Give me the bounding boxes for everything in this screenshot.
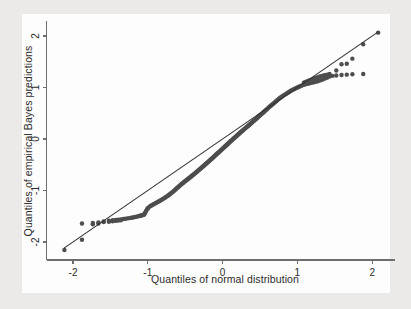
scatter-point [119,218,123,222]
scatter-point [350,72,354,76]
reference-line [64,32,378,248]
scatter-point [345,72,349,76]
x-tick-label: -2 [69,267,78,278]
scatter-point [350,56,354,60]
scatter-point [361,72,365,76]
scatter-point [80,237,84,241]
scatter-point [339,73,343,77]
y-tick-label: -2 [30,237,41,246]
y-axis-title: Quantiles of empirical Bayes predictions [22,46,34,237]
scatter-point [339,62,343,66]
scatter-point [107,220,111,224]
qq-plot-screenshot: -2-1012 -2-1012 Quantiles of normal dist… [0,0,411,309]
qq-plot-figure: -2-1012 -2-1012 Quantiles of normal dist… [0,0,411,309]
scatter-point [146,206,150,210]
scatter-point [345,62,349,66]
scatter-point [80,221,84,225]
y-tick-label: 2 [30,33,41,39]
scatter-point [334,68,338,72]
scatter-point [334,73,338,77]
x-axis-title: Quantiles of normal distribution [151,273,299,285]
x-tick-label: 2 [369,267,375,278]
scatter-point [91,221,95,225]
